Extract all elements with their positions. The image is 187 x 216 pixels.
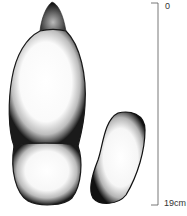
specimen-illustration xyxy=(0,0,187,216)
specimen-lower-lobe xyxy=(13,143,81,205)
scale-bottom-label: 19cm xyxy=(164,199,186,208)
kidney-shaped-specimen xyxy=(91,112,145,203)
specimen-upper-lobe xyxy=(9,30,85,147)
scale-bar xyxy=(151,3,158,205)
scale-top-label: 0 xyxy=(165,2,170,11)
specimen-tip xyxy=(40,2,66,31)
